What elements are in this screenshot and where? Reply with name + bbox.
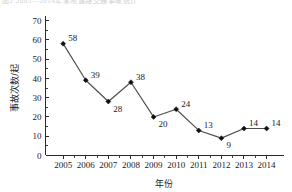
data-point-label: 14 [272, 118, 282, 128]
x-axis: 2005200620072008200920102011201220132014 [46, 156, 285, 170]
x-tick-label: 2008 [122, 160, 141, 170]
y-tick-label: 40 [33, 74, 43, 84]
data-point-label: 24 [181, 99, 191, 109]
x-tick-label: 2013 [235, 160, 254, 170]
y-tick-label: 20 [33, 112, 43, 122]
series-point-labels: 5839283820241391414 [68, 33, 281, 150]
y-tick-label: 30 [33, 93, 43, 103]
y-tick-label: 60 [33, 35, 43, 45]
x-tick-label: 2005 [54, 160, 73, 170]
y-axis: 010203040506070 [33, 16, 50, 161]
x-axis-title: 年份 [155, 178, 173, 189]
data-point-label: 13 [204, 120, 214, 130]
chart-figure: 图2 2005—2014年某地道路交通事故统计 010203040506070 … [0, 0, 292, 192]
x-axis-tick-labels: 2005200620072008200920102011201220132014 [54, 160, 276, 170]
x-tick-label: 2007 [99, 160, 118, 170]
data-series: 5839283820241391414 [61, 33, 281, 150]
data-point-label: 20 [159, 119, 169, 129]
data-point-marker [264, 126, 269, 131]
data-point-label: 28 [113, 104, 123, 114]
x-tick-label: 2014 [258, 160, 277, 170]
x-tick-label: 2012 [212, 160, 230, 170]
data-point-label: 14 [249, 118, 259, 128]
y-axis-tick-labels: 010203040506070 [33, 16, 43, 161]
y-tick-label: 50 [33, 54, 43, 64]
x-tick-label: 2010 [167, 160, 186, 170]
y-tick-label: 70 [33, 16, 43, 26]
y-axis-title: 事故次数/起 [9, 64, 20, 112]
data-point-label: 9 [226, 140, 231, 150]
x-tick-label: 2009 [145, 160, 164, 170]
data-point-marker [241, 126, 246, 131]
line-chart: 010203040506070 200520062007200820092010… [0, 0, 292, 192]
y-tick-label: 10 [33, 131, 43, 141]
data-point-label: 58 [68, 33, 78, 43]
y-tick-label: 0 [37, 151, 42, 161]
x-tick-label: 2006 [77, 160, 96, 170]
data-point-marker [219, 136, 224, 141]
data-point-label: 39 [91, 70, 101, 80]
x-tick-label: 2011 [190, 160, 208, 170]
data-point-label: 38 [136, 72, 146, 82]
